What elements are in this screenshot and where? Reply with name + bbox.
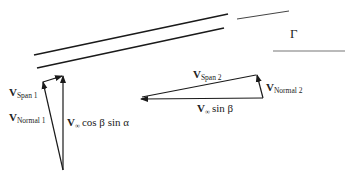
v-normal-1-arrow	[43, 82, 63, 170]
v-inf-sin-beta-label: V∞sin β	[197, 102, 234, 116]
v-normal-2-arrow	[257, 75, 263, 98]
v-normal-2-label: VNormal 2	[266, 81, 303, 95]
v-inf-cos-beta-sin-alpha-label: V∞cos β sin α	[67, 116, 129, 130]
gamma-label: Γ	[290, 26, 298, 41]
wing-edge-line-upper-ext	[237, 11, 289, 19]
v-inf-sin-beta-arrow	[141, 98, 263, 99]
v-span-1-label: VSpan 1	[9, 86, 38, 100]
vortex-velocity-diagram: Γ VSpan 1 VNormal 1 V∞cos β sin α VSpan …	[0, 0, 353, 182]
wing-edge-line-upper	[34, 14, 228, 55]
v-span-1-arrow	[43, 76, 62, 82]
v-span-2-label: VSpan 2	[193, 68, 222, 82]
v-normal-1-label: VNormal 1	[9, 111, 46, 125]
